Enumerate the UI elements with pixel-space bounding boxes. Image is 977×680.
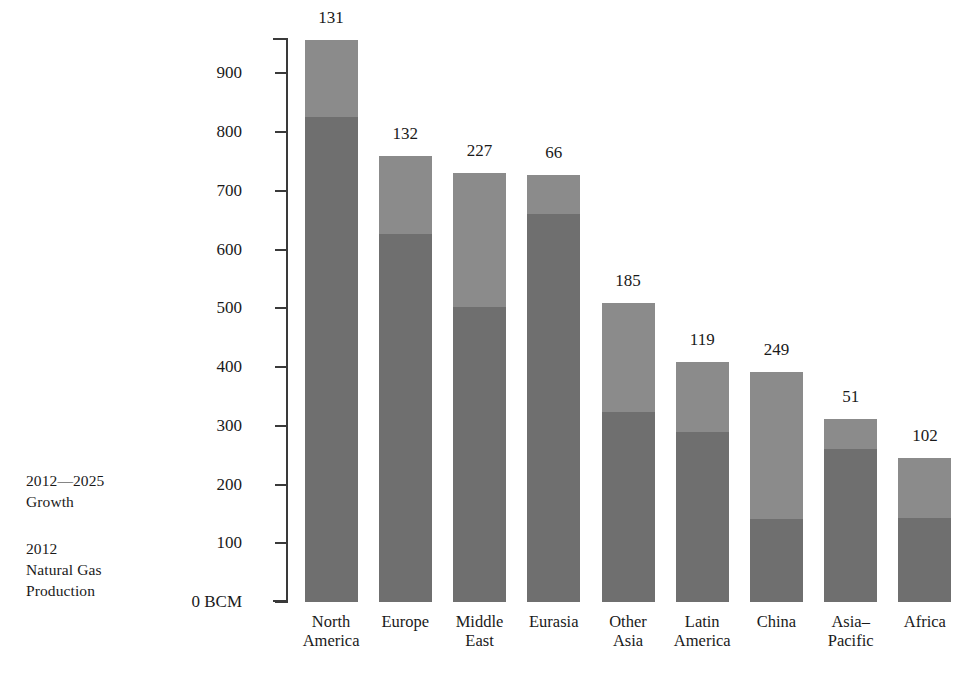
category-label-line: Europe [374,612,438,631]
category-label-line: Other [596,612,660,631]
category-label-line: Asia– [819,612,883,631]
bar[interactable] [602,303,655,602]
bar-group[interactable]: 227MiddleEast [453,38,506,602]
bar-segment-production[interactable] [676,432,729,602]
plot-area: 0 BCM100200300400500600700800900 131Nort… [286,38,954,602]
x-axis-category-label: Asia–Pacific [819,612,883,650]
y-axis-tick-label: 500 [217,299,243,316]
bar-value-label: 131 [305,9,358,26]
bar-segment-production[interactable] [824,449,877,602]
bar[interactable] [527,175,580,602]
y-axis-tick-label: 0 BCM [191,593,242,610]
x-axis-category-label: NorthAmerica [299,612,363,650]
category-label-line: America [670,631,734,650]
category-label-line: Asia [596,631,660,650]
y-axis-tick-label: 200 [217,476,243,493]
bar-group[interactable]: 119LatinAmerica [676,38,729,602]
bar-segment-growth[interactable] [305,40,358,117]
bar-segment-production[interactable] [527,214,580,602]
bar-value-label: 66 [527,144,580,161]
y-axis-tick-label: 700 [217,182,243,199]
category-label-line: Middle [448,612,512,631]
bar[interactable] [379,156,432,602]
category-label-line: East [448,631,512,650]
bar-segment-growth[interactable] [898,458,951,518]
bar-value-label: 249 [750,341,803,358]
bar-value-label: 119 [676,331,729,348]
y-axis-tick-label: 400 [217,358,243,375]
bar-segment-growth[interactable] [379,156,432,234]
bar-segment-growth[interactable] [824,419,877,449]
bar-group[interactable]: 185OtherAsia [602,38,655,602]
bar[interactable] [305,40,358,602]
bar-value-label: 185 [602,272,655,289]
x-axis-category-label: Europe [374,612,438,631]
bar-segment-production[interactable] [898,518,951,602]
bar-group[interactable]: 66Eurasia [527,38,580,602]
y-axis-tick-label: 100 [217,534,243,551]
bar[interactable] [750,372,803,602]
category-label-line: North [299,612,363,631]
bar-segment-production[interactable] [750,519,803,602]
category-label-line: Latin [670,612,734,631]
x-axis-category-label: China [745,612,809,631]
y-axis-ticks: 0 BCM100200300400500600700800900 [66,38,266,602]
bar[interactable] [824,419,877,602]
bar[interactable] [676,362,729,602]
category-label-line: Africa [893,612,957,631]
x-axis-category-label: OtherAsia [596,612,660,650]
y-axis-tick-label: 800 [217,123,243,140]
bar-segment-production[interactable] [305,117,358,602]
bar-group[interactable]: 132Europe [379,38,432,602]
bar-segment-growth[interactable] [453,173,506,306]
category-label-line: Eurasia [522,612,586,631]
bar-value-label: 132 [379,125,432,142]
bar-value-label: 51 [824,388,877,405]
bar-segment-growth[interactable] [527,175,580,214]
bar-group[interactable]: 102Africa [898,38,951,602]
x-axis-category-label: MiddleEast [448,612,512,650]
bar-value-label: 102 [898,427,951,444]
bar-segment-growth[interactable] [602,303,655,412]
bar-segment-production[interactable] [379,234,432,602]
y-axis-tick-label: 300 [217,417,243,434]
bar-segment-production[interactable] [453,307,506,603]
y-axis-tick-label: 900 [217,64,243,81]
bar-series-layer: 131NorthAmerica132Europe227MiddleEast66E… [286,38,954,602]
bar[interactable] [898,458,951,602]
bar-value-label: 227 [453,142,506,159]
bar-group[interactable]: 249China [750,38,803,602]
x-axis-category-label: Eurasia [522,612,586,631]
x-axis-category-label: LatinAmerica [670,612,734,650]
bar[interactable] [453,173,506,602]
stacked-bar-chart: 2012—2025 Growth 2012 Natural Gas Produc… [0,0,977,680]
bar-segment-production[interactable] [602,412,655,602]
y-axis-tick-label: 600 [217,241,243,258]
category-label-line: China [745,612,809,631]
bar-group[interactable]: 131NorthAmerica [305,38,358,602]
bar-segment-growth[interactable] [676,362,729,432]
bar-group[interactable]: 51Asia–Pacific [824,38,877,602]
category-label-line: Pacific [819,631,883,650]
x-axis-category-label: Africa [893,612,957,631]
category-label-line: America [299,631,363,650]
bar-segment-growth[interactable] [750,372,803,518]
